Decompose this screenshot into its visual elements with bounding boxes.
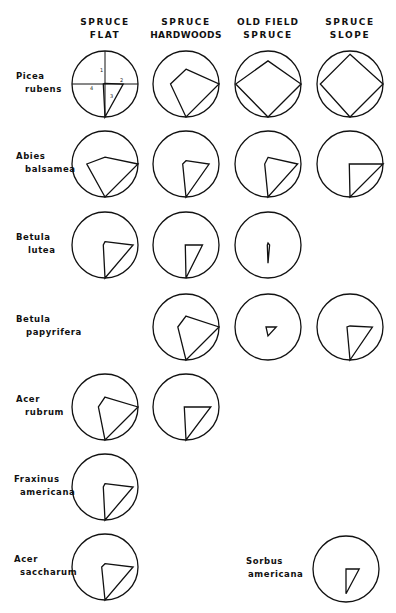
circle-outline [317, 51, 383, 117]
diagram-picea-rubens-spruce-hardwoods [153, 51, 219, 117]
circle-outline [235, 131, 301, 197]
diagram-abies-balsamea-old-field-spruce [235, 131, 301, 197]
diagram-abies-balsamea-spruce-flat [72, 131, 138, 197]
diagram-betula-lutea-old-field-spruce [235, 212, 301, 278]
diagram-abies-balsamea-spruce-slope [317, 131, 383, 197]
abundance-polygon [98, 397, 138, 440]
circle-outline [153, 51, 219, 117]
abundance-polygon [267, 243, 269, 263]
diagram-betula-lutea-spruce-flat [72, 212, 138, 278]
diagram-sorbus-americana [313, 536, 379, 602]
quadrant-label-bottom: 3 [110, 93, 113, 99]
abundance-polygon [87, 157, 138, 197]
abundance-polygon [103, 83, 123, 117]
circle-outline [153, 294, 219, 360]
quadrant-label-right: 2 [120, 77, 123, 83]
circle-outline [235, 212, 301, 278]
abundance-polygon [266, 327, 276, 336]
diagram-picea-rubens-spruce-slope [317, 51, 383, 117]
diagram-acer-rubrum-spruce-hardwoods [153, 374, 219, 440]
abundance-polygon [184, 407, 211, 440]
diagram-acer-rubrum-spruce-flat [72, 374, 138, 440]
diagram-acer-saccharum-spruce-flat [72, 534, 138, 600]
abundance-polygon [185, 245, 202, 278]
diagram-abies-balsamea-spruce-hardwoods [153, 131, 219, 197]
quadrant-label-top: 1 [100, 67, 103, 73]
abundance-polygon [171, 69, 220, 117]
diagram-fraxinus-americana-spruce-flat [72, 454, 138, 520]
circle-outline [72, 374, 138, 440]
abundance-polygon [265, 157, 298, 197]
diagram-canvas: 1234 [0, 0, 396, 613]
diagram-picea-rubens-spruce-flat: 1234 [72, 51, 138, 117]
diagram-betula-papyrifera-spruce-slope [317, 294, 383, 360]
diagram-picea-rubens-old-field-spruce [235, 51, 301, 117]
abundance-polygon [103, 242, 133, 278]
abundance-polygon [346, 569, 359, 594]
quadrant-label-left: 4 [90, 85, 93, 91]
diagram-betula-papyrifera-spruce-hardwoods [153, 294, 219, 360]
abundance-polygon [178, 316, 219, 360]
circle-outline [72, 131, 138, 197]
abundance-polygon [103, 484, 133, 520]
diagram-betula-papyrifera-old-field-spruce [235, 294, 301, 360]
diagram-betula-lutea-spruce-hardwoods [153, 212, 219, 278]
abundance-polygon [102, 564, 133, 600]
